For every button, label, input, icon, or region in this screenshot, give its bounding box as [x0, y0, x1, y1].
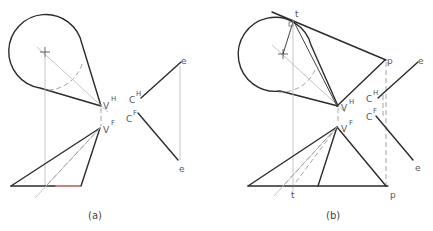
- label-c-f: C: [126, 114, 132, 124]
- label-c-h-sup-b: H: [373, 89, 378, 97]
- label-v-f-sup-b: F: [349, 119, 353, 127]
- label-c-h: C: [129, 95, 135, 105]
- hidden-line-front-b2: [293, 127, 337, 186]
- label-v-h: V: [103, 101, 110, 111]
- label-p-bottom: p: [390, 190, 396, 200]
- cone-top-view-outline: [9, 14, 101, 106]
- label-v-f-sup: F: [111, 119, 115, 127]
- label-t-top: t: [295, 9, 299, 19]
- label-c-h-sup: H: [136, 90, 141, 98]
- line-v-p-front: [337, 127, 386, 186]
- line-e-front-b: [376, 116, 413, 160]
- label-c-f-sup: F: [133, 109, 137, 117]
- label-v-h-sup-b: H: [349, 98, 354, 106]
- descriptive-geometry-figure: V H V F C H C F e e (a): [0, 0, 433, 231]
- panel-a: V H V F C H C F e e (a): [9, 14, 187, 221]
- radius-to-t: [283, 22, 293, 54]
- axis-line-top: [37, 47, 108, 112]
- label-v-h-b: V: [341, 103, 348, 113]
- hidden-arc-top-b: [278, 70, 315, 92]
- label-c-f-sup-b: F: [373, 107, 377, 115]
- cone-top-view-outline-b: [238, 17, 338, 106]
- label-v-f: V: [103, 125, 110, 135]
- cone-front-view: [11, 128, 100, 186]
- label-c-h-b: C: [366, 94, 372, 104]
- caption-a: (a): [88, 210, 102, 221]
- panel-b: t t p p V H V F C H C F e e (b): [238, 9, 424, 221]
- caption-b: (b): [326, 210, 340, 221]
- label-v-f-b: V: [341, 124, 348, 134]
- label-t-bottom: t: [291, 190, 295, 200]
- center-mark: [40, 47, 50, 57]
- label-e-bottom-b: e: [415, 163, 421, 173]
- label-e-top-b: e: [418, 56, 424, 66]
- hidden-arc-top: [45, 64, 82, 90]
- label-e-bottom: e: [179, 164, 185, 174]
- line-e-top: [141, 62, 181, 98]
- line-e-top-b: [378, 62, 418, 98]
- label-e-top: e: [181, 56, 187, 66]
- tangent-line-tp: [272, 12, 386, 60]
- line-t-v-top: [293, 20, 337, 106]
- line-e-front: [138, 113, 178, 160]
- label-p-top: p: [387, 56, 393, 66]
- cone-front-view-b: [248, 127, 337, 186]
- label-v-h-sup: H: [111, 95, 116, 103]
- line-v-p-top: [337, 60, 385, 106]
- label-c-f-b: C: [366, 112, 372, 122]
